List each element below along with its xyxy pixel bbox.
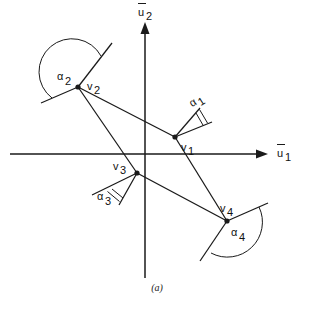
- angle-label-alpha2: α 2: [57, 70, 71, 87]
- extension-v1-b: [175, 122, 212, 137]
- extension-v2-a: [78, 43, 112, 87]
- vertex-label-v4: v 4: [220, 202, 233, 218]
- y-axis-label-letter: u: [138, 6, 144, 18]
- axis-labels-group: u 1 u 2: [138, 4, 291, 164]
- x-axis-arrowhead: [256, 150, 268, 159]
- x-axis-label: u 1: [277, 145, 291, 164]
- figure-container: u 1 u 2 v 1 v 2 v 3: [0, 0, 314, 310]
- angle-label-alpha4-subscript: 4: [239, 231, 245, 243]
- angle-label-alpha1: α 1: [187, 91, 207, 112]
- angle-label-alpha3-subscript: 3: [105, 195, 111, 207]
- vertex-label-v2: v 2: [87, 80, 100, 96]
- extension-v1-a: [175, 108, 200, 137]
- vertex-label-v2-letter: v: [87, 80, 93, 92]
- vertex-dot-v2: [75, 84, 80, 89]
- extension-v4-b: [200, 221, 227, 261]
- angle-label-alpha4-letter: α: [231, 226, 238, 238]
- y-axis-label-subscript: 2: [146, 10, 152, 22]
- edge-v2-v3: [78, 87, 137, 173]
- vertex-dot-v3: [134, 170, 139, 175]
- edge-v1-v2: [78, 87, 175, 137]
- vertex-label-v4-subscript: 4: [227, 206, 233, 218]
- polygon-angle-diagram: u 1 u 2 v 1 v 2 v 3: [0, 0, 314, 310]
- vertex-label-v3-subscript: 3: [120, 164, 126, 176]
- angle-label-alpha2-subscript: 2: [65, 75, 71, 87]
- vertex-label-v3-letter: v: [113, 160, 119, 172]
- angle-labels-group: α 1 α 2 α 3 α 4: [57, 70, 245, 243]
- vertex-dot-v1: [172, 134, 177, 139]
- vertex-dot-v4: [224, 218, 229, 223]
- y-axis-arrowhead: [141, 22, 150, 34]
- x-axis-label-subscript: 1: [285, 151, 291, 163]
- angle-label-alpha2-letter: α: [57, 70, 64, 82]
- x-axis-label-letter: u: [277, 147, 283, 159]
- angle-label-alpha4: α 4: [231, 226, 245, 243]
- vertex-label-v1-letter: v: [181, 141, 187, 153]
- vertex-label-v2-subscript: 2: [94, 84, 100, 96]
- vertex-label-v3: v 3: [113, 160, 126, 176]
- vertex-label-v4-letter: v: [220, 202, 226, 214]
- angle-label-alpha3-letter: α: [97, 190, 104, 202]
- extension-v2-b: [41, 87, 78, 103]
- y-axis-label: u 2: [138, 4, 152, 23]
- angle-arcs-group: [39, 39, 262, 257]
- axes-group: [10, 22, 268, 278]
- edge-v3-v4: [137, 173, 227, 221]
- vertex-label-v1-subscript: 1: [188, 145, 194, 157]
- figure-caption: (a): [0, 282, 314, 293]
